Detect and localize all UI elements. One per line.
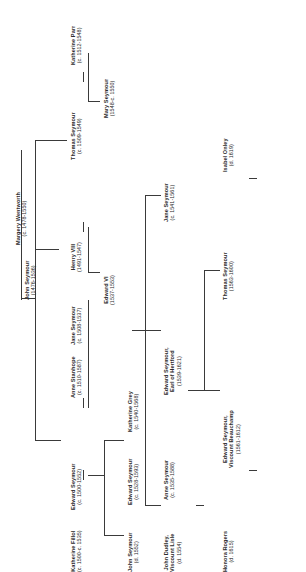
descent-stem-stanhope [132,330,145,331]
descent-stem-hertford-grey [188,390,204,391]
person-node-margery-wentworth[interactable]: Margery Wentworth (c. 1478-1550) [15,192,27,245]
person-node-john-seymour-1476[interactable]: John Seymour (1476-1536) [24,261,36,300]
person-node-katherine-fillol[interactable]: Katherine Fillol (c. 1500-c. 1535) [70,530,82,572]
person-dates: (1476-1536) [30,261,36,300]
descent-to-edward-vi [88,272,100,273]
person-dates: (1537-1553) [109,275,115,305]
person-dates: (c. 1500-1552) [76,464,82,510]
person-name-line2: Earl of Hertford [169,347,175,395]
person-dates: (c. 1508-1537) [76,306,82,345]
branch-jane-seymour [35,249,59,250]
person-node-katherine-parr[interactable]: Katherine Parr (c. 1512-1548) [70,26,82,65]
children-spine-stanhope [145,195,146,505]
person-node-edward-vi[interactable]: Edward VI (1537-1553) [103,275,115,305]
person-node-mary-seymour[interactable]: Mary Seymour (1548-c. 1550) [103,79,115,118]
person-dates: (d. 1552) [133,533,139,572]
branch-edward-hertford [145,330,161,331]
person-dates: (c. 1535-1588) [169,460,175,500]
person-node-anne-stanhope[interactable]: Anne Stanhope (c. 1510-1587) [70,356,82,398]
marriage-dash-thomas-isabel [249,178,257,179]
person-node-edward-seymour-hertford[interactable]: Edward Seymour, Earl of Hertford (1539-1… [163,347,182,395]
person-node-edward-seymour-1528[interactable]: Edward Seymour (c. 1528-1593) [127,459,139,505]
branch-edward-seymour-1528 [104,440,124,441]
branch-jane-seymour-1541 [145,195,161,196]
marriage-tick-thomas-katherine [83,72,84,82]
family-tree-diagram: John Seymour (1476-1536) Margery Wentwor… [0,0,306,572]
marriage-tick-edward-anne [83,398,84,408]
descent-to-mary-seymour [88,101,100,102]
person-node-jane-seymour-1508[interactable]: Jane Seymour (c. 1508-1537) [70,306,82,345]
marriage-line-thomas-katherine [88,53,89,101]
branch-anne-seymour-1535 [145,505,161,506]
person-dates: (1491-1547) [76,242,82,272]
person-dates: (1563-1600) [228,252,234,300]
branch-edward-beauchamp [204,390,220,391]
marriage-tick-henry-jane [83,222,84,232]
person-node-edward-seymour-1500[interactable]: Edward Seymour (c. 1500-1552) [70,464,82,510]
person-node-john-seymour-1552[interactable]: John Seymour (d. 1552) [127,533,139,572]
person-dates: (c. 1509-1549) [76,112,82,160]
person-dates: (1561-1612) [235,410,241,468]
person-dates: (d. 1554) [176,533,182,572]
branch-thomas-seymour [35,140,67,141]
person-node-edward-seymour-beauchamp[interactable]: Edward Seymour, Viscount Beauchamp (1561… [222,410,241,468]
marriage-tick-edward-katherine-fillol [83,470,84,480]
person-node-john-dudley[interactable]: John Dudley, Viscount Lisle (d. 1554) [163,533,182,572]
person-node-isabel-onley[interactable]: Isabel Onley (d. 1619) [222,138,234,172]
person-node-henry-viii[interactable]: Henry VIII (1491-1547) [70,242,82,272]
person-dates: (c. 1500-c. 1535) [76,530,82,572]
person-node-katherine-grey[interactable]: Katherine Grey (c. 1540-1568) [127,391,139,432]
person-node-jane-seymour-1541[interactable]: Jane Seymour (c. 1541-1561) [163,183,175,222]
branch-thomas-seymour-1563 [204,270,220,271]
children-spine-hertford-grey [204,270,205,390]
children-spine-fillol [104,440,105,535]
person-node-honora-rogers[interactable]: Honora Rogers (d. 1615) [222,531,234,572]
person-node-thomas-seymour-1563[interactable]: Thomas Seymour (1563-1600) [222,252,234,300]
marriage-dash-dudley-anne [196,505,204,506]
person-dates: (d. 1615) [228,531,234,572]
person-dates: (d. 1619) [228,138,234,172]
branch-edward-seymour-1500 [35,440,61,441]
person-dates: (c. 1540-1568) [133,391,139,432]
person-dates: (c. 1541-1561) [169,183,175,222]
marriage-line-edward-anne [88,300,89,408]
marriage-line-henry-jane [88,227,89,273]
person-node-anne-seymour-1535[interactable]: Anne Seymour (c. 1535-1588) [163,460,175,500]
person-dates: (c. 1512-1548) [76,26,82,65]
person-name-line2: Viscount Beauchamp [228,410,234,468]
person-node-thomas-seymour-1509[interactable]: Thomas Seymour (c. 1509-1549) [70,112,82,160]
person-dates: (c. 1478-1550) [21,192,27,245]
person-dates: (c. 1528-1593) [133,459,139,505]
descent-stem-fillol [88,475,104,476]
person-dates: (c. 1510-1587) [76,356,82,398]
person-name-line2: Viscount Lisle [169,533,175,572]
marriage-dash-edward-honora [249,470,257,471]
person-dates: (1548-c. 1550) [109,79,115,118]
branch-john-seymour-1552 [104,535,124,536]
person-dates: (1539-1621) [176,347,182,395]
